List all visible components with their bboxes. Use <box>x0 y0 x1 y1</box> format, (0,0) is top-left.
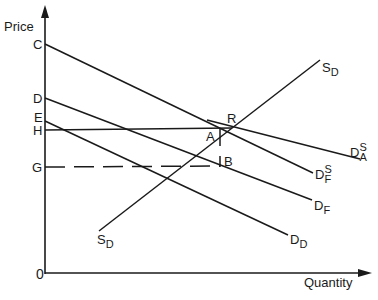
point-r: R <box>227 112 236 125</box>
price-label-g: G <box>32 161 42 174</box>
y-axis-label: Price <box>4 20 34 33</box>
curve-c-dfs <box>45 44 313 173</box>
curve-d-df <box>45 98 312 200</box>
y-axis-arrow-icon <box>41 5 49 18</box>
label-sd-top: SD <box>322 61 339 75</box>
price-label-d: D <box>33 92 42 105</box>
label-dd: DD <box>290 233 307 247</box>
label-sd-bottom: SD <box>97 233 114 247</box>
label-df: DF <box>314 199 330 213</box>
label-das: DSA <box>350 144 367 164</box>
point-a: A <box>206 130 215 143</box>
line-g-dashed <box>45 166 220 167</box>
line-h <box>45 128 232 130</box>
x-axis-arrow-icon <box>358 269 372 277</box>
price-label-c: C <box>33 38 42 51</box>
label-dfs: DSF <box>315 166 332 186</box>
price-label-h: H <box>33 124 42 137</box>
point-b: B <box>224 155 233 168</box>
origin-zero: 0 <box>36 268 44 281</box>
x-axis-label: Quantity <box>304 276 352 289</box>
diagram-canvas <box>0 0 378 300</box>
